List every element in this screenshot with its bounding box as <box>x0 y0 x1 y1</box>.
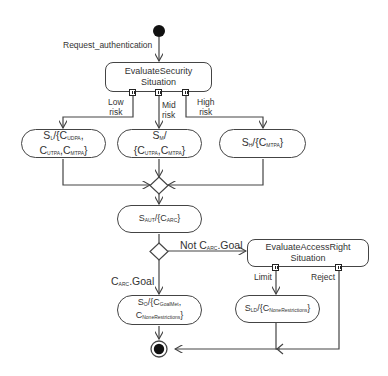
pin-high-icon <box>182 89 189 96</box>
evaluate-security-line1: EvaluateSecurity <box>125 66 193 77</box>
state-low-risk: SL/{CUDPA, CUTPA,CMTPA} <box>21 129 106 158</box>
mid-risk-label: Midrisk <box>162 100 176 120</box>
low-risk-label: Lowrisk <box>108 97 124 117</box>
evaluate-security-action: EvaluateSecurity Situation <box>105 62 212 92</box>
decision-node <box>150 243 168 260</box>
state-mid-risk: SM/ {CUTPA,CMTPA} <box>117 129 202 158</box>
start-transition-label: Request_authentication <box>63 40 152 50</box>
high-risk-label: Highrisk <box>197 97 214 117</box>
state-authenticated: SAUT/{CARC} <box>117 205 202 233</box>
pin-reject-icon <box>335 264 342 271</box>
pin-mid-icon <box>155 89 162 96</box>
state-high-risk: SH/{CMTPA} <box>219 129 306 158</box>
guard-reject: Reject <box>311 272 335 282</box>
guard-not-goal: Not CARC.Goal <box>180 240 243 253</box>
state-limited: SLD/{CNoneRestrictions} <box>235 295 320 323</box>
pin-low-icon <box>129 89 136 96</box>
guard-limit: Limit <box>254 272 272 282</box>
evaluate-security-line2: Situation <box>141 77 176 88</box>
evaluate-access-right-action: EvaluateAccessRight Situation <box>247 239 369 267</box>
evaluate-access-line1: EvaluateAccessRight <box>265 242 350 253</box>
initial-node <box>153 25 165 37</box>
guard-goal: CARC.Goal <box>111 276 154 289</box>
pin-limit-icon <box>272 264 279 271</box>
merge-node <box>150 177 168 194</box>
state-goal-met: SO/{CGoalMet, CNoneRestrictions} <box>117 295 202 325</box>
evaluate-access-line2: Situation <box>290 253 325 264</box>
